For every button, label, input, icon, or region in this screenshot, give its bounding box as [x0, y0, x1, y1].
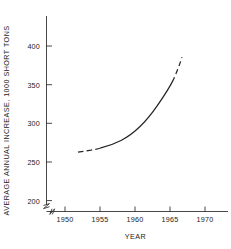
x-axis-break-icon: [50, 209, 55, 215]
series-segment-dashed-right: [172, 57, 182, 81]
series-segment-dashed-left: [78, 148, 101, 152]
chart-figure: AVERAGE ANNUAL INCREASE, 1000 SHORT TONS…: [0, 0, 231, 249]
plot-svg: [0, 0, 231, 249]
y-axis-break-icon: [44, 204, 50, 209]
series-segment-solid: [101, 82, 172, 148]
